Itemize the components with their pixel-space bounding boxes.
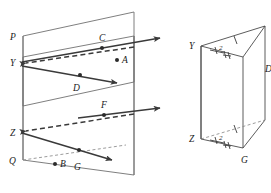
left-figure-group: C D F G P Y Z Q A B xyxy=(9,12,160,175)
geometry-diagram-svg: C D F G P Y Z Q A B xyxy=(0,0,271,193)
ray-through-f xyxy=(78,108,160,118)
prism-bottom-right-edge xyxy=(243,120,265,148)
point-d-dot xyxy=(78,73,82,77)
prism-top-back-edge xyxy=(201,26,265,46)
label-b: B xyxy=(60,159,66,169)
dashed-ray-to-z xyxy=(26,114,134,131)
prism-bottom-hidden-edge xyxy=(201,120,265,139)
geometry-figure-root: C D F G P Y Z Q A B xyxy=(0,0,271,193)
ray-through-g xyxy=(22,133,112,160)
label-g: G xyxy=(74,162,81,172)
tick-top-double-cross xyxy=(223,55,231,56)
label-right-z: Z xyxy=(189,134,195,144)
label-p: P xyxy=(9,32,16,42)
prism-top-right-edge xyxy=(243,26,265,57)
ray-through-c xyxy=(22,38,160,62)
numeral-bottom: 2 xyxy=(219,134,223,142)
tick-top-single xyxy=(234,36,237,44)
lower-plane-outline xyxy=(23,36,134,175)
label-q: Q xyxy=(9,156,16,166)
ray-through-d xyxy=(22,66,117,83)
label-c: C xyxy=(99,33,106,43)
label-right-y: Y xyxy=(189,41,196,51)
label-a: A xyxy=(121,55,128,65)
label-right-g: G xyxy=(241,155,248,165)
point-c-dot xyxy=(100,46,104,50)
hidden-rear-bottom-edge xyxy=(23,145,126,160)
point-b-dot xyxy=(53,162,57,166)
label-y: Y xyxy=(10,58,17,68)
numeral-top: 2 xyxy=(219,44,223,52)
tick-bottom-angle-mark xyxy=(215,137,217,144)
right-figure-group: 2 2 Y Z D G xyxy=(189,26,271,165)
label-d: D xyxy=(72,83,80,93)
point-f-dot xyxy=(102,113,106,117)
point-g-dot xyxy=(77,148,81,152)
label-right-d: D xyxy=(264,64,271,74)
label-f: F xyxy=(100,100,107,110)
label-z: Z xyxy=(10,128,16,138)
lower-plane-edges xyxy=(23,36,134,175)
point-a-dot xyxy=(115,58,119,62)
